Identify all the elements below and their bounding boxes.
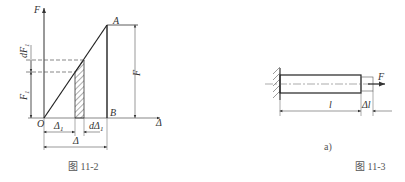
length-label: l <box>329 99 332 110</box>
f1-label: F1 <box>18 90 31 101</box>
diagram-canvas: F Δ O A B F F1 dF1 Δ1 dΔ1 Δ 图 11-2 F <box>0 0 405 182</box>
df1-label: dF1 <box>18 43 31 58</box>
figure-caption-11-3: 图 11-3 <box>355 161 385 172</box>
y-axis-label: F <box>33 4 41 15</box>
point-a-label: A <box>112 15 120 26</box>
delta1-label: Δ1 <box>53 120 63 133</box>
hatched-strip <box>75 60 84 118</box>
d-delta1-label: dΔ1 <box>89 120 103 133</box>
subfigure-label: a) <box>324 141 332 153</box>
bar-tension-diagram: F l Δl a) 图 11-3 <box>265 67 392 172</box>
force-label: F <box>377 71 385 82</box>
figure-caption-11-2: 图 11-2 <box>68 161 98 172</box>
delta-total-label: Δ <box>72 135 79 146</box>
x-axis-label: Δ <box>155 117 162 128</box>
force-dimension-label: F <box>131 69 142 77</box>
origin-label: O <box>37 118 44 129</box>
point-b-label: B <box>110 107 116 118</box>
bar-body <box>280 75 361 93</box>
wall-hatch <box>273 67 280 98</box>
force-displacement-diagram: F Δ O A B F F1 dF1 Δ1 dΔ1 Δ 图 11-2 <box>18 4 162 172</box>
elongation-label: Δl <box>361 99 371 110</box>
